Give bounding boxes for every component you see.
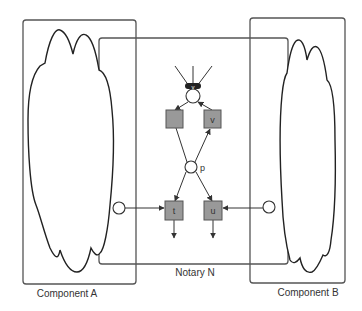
component-b-label: Component B (277, 287, 338, 298)
transition-t: t (165, 201, 183, 220)
interface-place-a (113, 202, 125, 214)
top-place: v (185, 83, 201, 103)
place-p: p (185, 161, 205, 173)
transition-v: v (204, 110, 221, 128)
component-a-label: Component A (37, 288, 98, 299)
place-p-label: p (200, 163, 205, 173)
transition-unnamed (166, 110, 183, 128)
top-place-marker: v (192, 84, 195, 90)
transition-u-label: u (210, 206, 215, 216)
transition-v-label: v (210, 115, 215, 125)
interface-place-b (263, 201, 275, 213)
notary-n-label: Notary N (175, 267, 214, 278)
diagram-canvas: v v t u p Component A Notary N Compone (0, 0, 362, 311)
transition-u: u (204, 201, 222, 220)
component-b-cloud-icon (280, 40, 335, 272)
component-a-cloud-icon (28, 30, 113, 272)
